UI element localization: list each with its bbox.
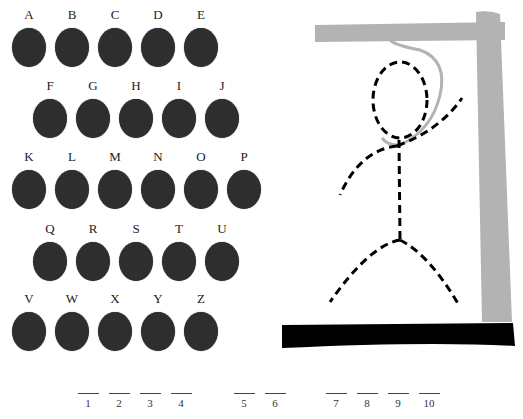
letter-label: I <box>161 79 197 93</box>
letter-button-disc[interactable] <box>76 99 110 138</box>
letter-button-disc[interactable] <box>12 312 46 351</box>
letter-button-disc[interactable] <box>119 99 153 138</box>
rope <box>382 40 442 145</box>
letter-label: W <box>54 292 90 306</box>
hangman-drawing <box>280 0 523 360</box>
letter-label: A <box>11 8 47 22</box>
slot-underline <box>140 393 161 394</box>
letter-button-disc[interactable] <box>184 170 218 209</box>
letter-key-l[interactable]: L <box>54 150 90 206</box>
letter-label: F <box>32 79 68 93</box>
slot-number: 6 <box>264 397 286 409</box>
letter-button-disc[interactable] <box>33 242 67 281</box>
letter-slot: 8 <box>356 393 378 409</box>
slot-underline <box>78 393 99 394</box>
slot-underline <box>265 393 286 394</box>
letter-key-w[interactable]: W <box>54 292 90 348</box>
letter-slot: 1 <box>77 393 99 409</box>
letter-button-disc[interactable] <box>119 242 153 281</box>
letter-button-disc[interactable] <box>12 28 46 67</box>
slot-number: 8 <box>356 397 378 409</box>
letter-key-z[interactable]: Z <box>183 292 219 348</box>
slot-number: 10 <box>418 397 440 409</box>
letter-slot: 7 <box>325 393 347 409</box>
letter-key-m[interactable]: M <box>97 150 133 206</box>
letter-key-p[interactable]: P <box>226 150 262 206</box>
letter-label: Y <box>140 292 176 306</box>
letter-label: U <box>204 222 240 236</box>
letter-key-r[interactable]: R <box>75 222 111 278</box>
slot-underline <box>388 393 409 394</box>
slot-underline <box>109 393 130 394</box>
letter-key-c[interactable]: C <box>97 8 133 64</box>
letter-key-f[interactable]: F <box>32 79 68 135</box>
slot-number: 1 <box>77 397 99 409</box>
letter-button-disc[interactable] <box>141 28 175 67</box>
letter-label: B <box>54 8 90 22</box>
letter-button-disc[interactable] <box>162 99 196 138</box>
letter-label: M <box>97 150 133 164</box>
letter-button-disc[interactable] <box>162 242 196 281</box>
letter-label: C <box>97 8 133 22</box>
letter-key-i[interactable]: I <box>161 79 197 135</box>
letter-key-v[interactable]: V <box>11 292 47 348</box>
letter-label: X <box>97 292 133 306</box>
letter-key-n[interactable]: N <box>140 150 176 206</box>
letter-button-disc[interactable] <box>12 170 46 209</box>
letter-button-disc[interactable] <box>141 312 175 351</box>
letter-label: H <box>118 79 154 93</box>
letter-key-h[interactable]: H <box>118 79 154 135</box>
slot-underline <box>326 393 347 394</box>
letter-key-s[interactable]: S <box>118 222 154 278</box>
letter-button-disc[interactable] <box>184 28 218 67</box>
stick-figure <box>330 62 462 307</box>
letter-label: J <box>204 79 240 93</box>
letter-key-k[interactable]: K <box>11 150 47 206</box>
letter-label: L <box>54 150 90 164</box>
letter-label: S <box>118 222 154 236</box>
letter-button-disc[interactable] <box>184 312 218 351</box>
letter-key-x[interactable]: X <box>97 292 133 348</box>
letter-key-a[interactable]: A <box>11 8 47 64</box>
letter-label: O <box>183 150 219 164</box>
letter-button-disc[interactable] <box>76 242 110 281</box>
letter-slot: 6 <box>264 393 286 409</box>
letter-label: T <box>161 222 197 236</box>
letter-key-o[interactable]: O <box>183 150 219 206</box>
letter-key-d[interactable]: D <box>140 8 176 64</box>
slot-number: 2 <box>108 397 130 409</box>
letter-button-disc[interactable] <box>55 28 89 67</box>
letter-button-disc[interactable] <box>33 99 67 138</box>
letter-key-y[interactable]: Y <box>140 292 176 348</box>
letter-button-disc[interactable] <box>98 28 132 67</box>
letter-key-t[interactable]: T <box>161 222 197 278</box>
slot-underline <box>171 393 192 394</box>
letter-slot: 4 <box>170 393 192 409</box>
slot-number: 9 <box>387 397 409 409</box>
gallows-post <box>476 11 512 322</box>
slot-underline <box>234 393 255 394</box>
letter-button-disc[interactable] <box>55 170 89 209</box>
letter-key-e[interactable]: E <box>183 8 219 64</box>
letter-button-disc[interactable] <box>98 170 132 209</box>
letter-button-disc[interactable] <box>227 170 261 209</box>
slot-number: 4 <box>170 397 192 409</box>
letter-key-q[interactable]: Q <box>32 222 68 278</box>
left-arm <box>340 146 397 195</box>
letter-label: Z <box>183 292 219 306</box>
letter-key-g[interactable]: G <box>75 79 111 135</box>
letter-key-u[interactable]: U <box>204 222 240 278</box>
letter-button-disc[interactable] <box>55 312 89 351</box>
left-leg <box>330 240 400 302</box>
slot-underline <box>357 393 378 394</box>
letter-key-j[interactable]: J <box>204 79 240 135</box>
letter-key-b[interactable]: B <box>54 8 90 64</box>
letter-button-disc[interactable] <box>141 170 175 209</box>
body <box>399 140 400 240</box>
letter-button-disc[interactable] <box>98 312 132 351</box>
letter-slot: 2 <box>108 393 130 409</box>
letter-button-disc[interactable] <box>205 99 239 138</box>
letter-slot: 5 <box>233 393 255 409</box>
letter-button-disc[interactable] <box>205 242 239 281</box>
letter-label: R <box>75 222 111 236</box>
